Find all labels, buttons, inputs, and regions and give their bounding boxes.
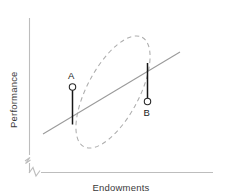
y-axis-title: Performance	[8, 71, 19, 128]
x-axis	[29, 168, 213, 177]
point-a-group: A	[68, 70, 76, 125]
point-b-marker	[144, 98, 150, 104]
scatter-diagram-figure: A B Performance Endowments	[0, 0, 226, 195]
point-a-marker	[69, 84, 75, 90]
y-axis-break-mark	[25, 158, 31, 164]
point-b-label: B	[144, 107, 151, 118]
x-axis-title: Endowments	[93, 182, 150, 193]
point-b-group: B	[144, 63, 151, 118]
regression-line	[43, 52, 180, 134]
point-a-label: A	[68, 70, 75, 81]
y-axis	[25, 18, 31, 173]
plot-canvas: A B Performance Endowments	[0, 0, 226, 195]
regression-line-segment	[43, 52, 180, 134]
x-axis-break-mark	[29, 168, 40, 177]
